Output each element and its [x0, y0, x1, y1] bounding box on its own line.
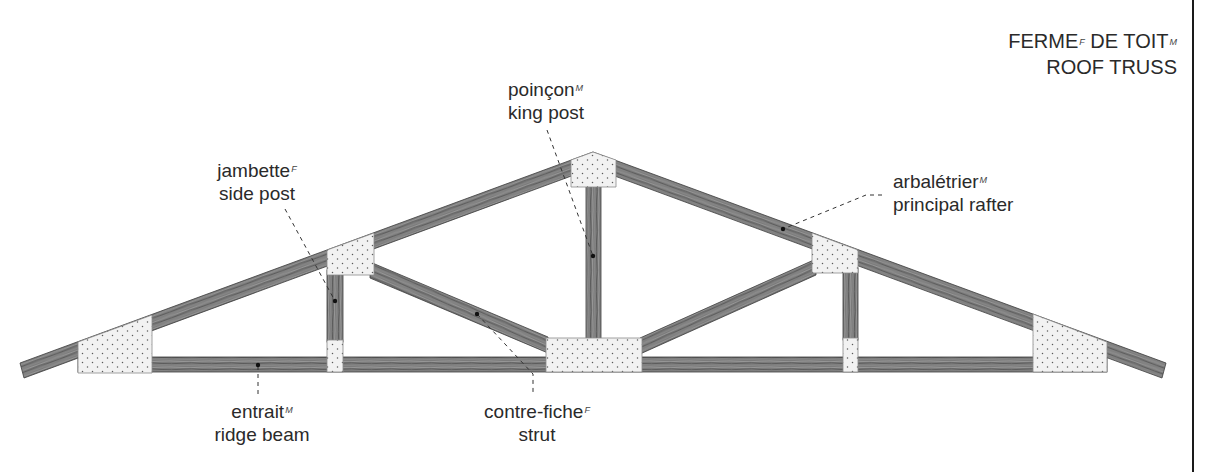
- side-post-dot: [333, 299, 337, 303]
- gender-marker: F: [584, 405, 590, 415]
- english-term: side post: [217, 182, 296, 205]
- right-side-post: [843, 268, 858, 340]
- english-term: ridge beam: [214, 423, 309, 446]
- ridge-beam-dot: [256, 363, 260, 367]
- left-side-post: [327, 270, 343, 342]
- label-ridge-beam: entraitM ridge beam: [214, 400, 309, 446]
- diagram-title: FERMEF DE TOITM ROOF TRUSS: [1008, 28, 1177, 80]
- strut-dot: [475, 312, 479, 316]
- label-french: poinçonM: [508, 78, 584, 101]
- right-side-gusset-plate: [812, 233, 858, 273]
- principal-rafter-dot: [781, 227, 785, 231]
- gender-marker: M: [1170, 37, 1178, 47]
- right-heel-gusset-plate: [1033, 314, 1107, 372]
- french-term: entrait: [231, 401, 284, 422]
- french-term: jambette: [217, 160, 290, 181]
- left-post-bottom-plate: [327, 340, 343, 372]
- title-french-word-2: DE TOIT: [1085, 30, 1169, 52]
- left-side-gusset-plate: [327, 233, 374, 275]
- label-king-post: poinçonM king post: [508, 78, 584, 124]
- principal-rafter-leader: [783, 195, 882, 229]
- gender-marker: F: [1079, 37, 1085, 47]
- gender-marker: F: [291, 164, 297, 174]
- label-side-post: jambetteF side post: [217, 159, 296, 205]
- left-strut: [370, 262, 548, 353]
- title-french-word-1: FERME: [1008, 30, 1078, 52]
- label-principal-rafter: arbalétrierM principal rafter: [893, 170, 1013, 216]
- center-bottom-gusset-plate: [546, 338, 642, 372]
- king-post: [586, 180, 601, 340]
- page-border-line: [1192, 0, 1194, 472]
- gender-marker: M: [980, 175, 988, 185]
- label-french: jambetteF: [217, 159, 296, 182]
- title-french: FERMEF DE TOITM: [1008, 30, 1177, 52]
- right-post-bottom-plate: [843, 338, 858, 372]
- roof-truss-diagram: FERMEF DE TOITM ROOF TRUSS poinçonM king…: [0, 0, 1205, 472]
- title-english: ROOF TRUSS: [1046, 56, 1177, 78]
- label-strut: contre-ficheF strut: [484, 400, 590, 446]
- english-term: principal rafter: [893, 193, 1013, 216]
- gender-marker: M: [285, 405, 293, 415]
- french-term: contre-fiche: [484, 401, 583, 422]
- english-term: strut: [484, 423, 590, 446]
- label-french: entraitM: [214, 400, 309, 423]
- french-term: arbalétrier: [893, 171, 979, 192]
- english-term: king post: [508, 101, 584, 124]
- peak-gusset-plate: [571, 152, 616, 187]
- left-heel-gusset-plate: [78, 315, 152, 373]
- right-strut: [640, 259, 816, 354]
- gender-marker: M: [576, 83, 584, 93]
- king-post-dot: [591, 254, 595, 258]
- label-french: arbalétrierM: [893, 170, 1013, 193]
- french-term: poinçon: [508, 79, 575, 100]
- label-french: contre-ficheF: [484, 400, 590, 423]
